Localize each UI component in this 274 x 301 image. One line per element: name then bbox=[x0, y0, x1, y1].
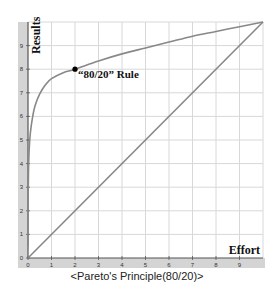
x-axis-band bbox=[18, 258, 265, 268]
x-axis-title: Effort bbox=[229, 243, 260, 257]
pareto-chart: 01234567890123456789 “80/20” Rule Result… bbox=[0, 0, 274, 301]
annotation-point bbox=[72, 67, 77, 72]
chart-caption: <Pareto's Principle(80/20)> bbox=[0, 270, 274, 282]
annotation-label: “80/20” Rule bbox=[78, 68, 139, 80]
y-axis-title: Results bbox=[29, 16, 43, 54]
